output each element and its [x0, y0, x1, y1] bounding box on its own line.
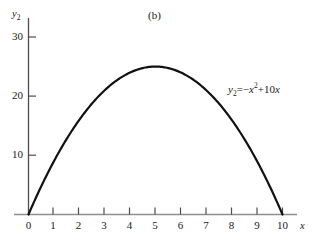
- xtick-label-4: 4: [121, 220, 139, 231]
- ytick-label-10: 10: [1, 149, 23, 160]
- plot-overlay: [0, 0, 315, 244]
- eq-coef: 10: [264, 83, 275, 95]
- xtick-label-7: 7: [197, 220, 215, 231]
- xtick-label-8: 8: [223, 220, 241, 231]
- ytick-label-20: 20: [1, 90, 23, 101]
- x-axis-label: x: [300, 221, 305, 232]
- equation-annotation: y2=−x2+10x: [228, 82, 280, 97]
- xtick-label-3: 3: [95, 220, 113, 231]
- eq-x2: x: [275, 83, 280, 95]
- xtick-label-5: 5: [146, 220, 164, 231]
- ytick-label-30: 30: [1, 31, 23, 42]
- xtick-label-2: 2: [70, 220, 88, 231]
- xtick-label-0: 0: [20, 220, 38, 231]
- y-axis-label: y2: [12, 9, 20, 22]
- panel-label: (b): [148, 10, 161, 21]
- xtick-label-9: 9: [248, 220, 266, 231]
- xtick-label-6: 6: [172, 220, 190, 231]
- xtick-label-10: 10: [274, 220, 292, 231]
- figure-panel-b: y2 x (b) 30 20 10 0 1 2 3 4 5 6 7 8 9 10…: [0, 0, 315, 244]
- xtick-label-1: 1: [44, 220, 62, 231]
